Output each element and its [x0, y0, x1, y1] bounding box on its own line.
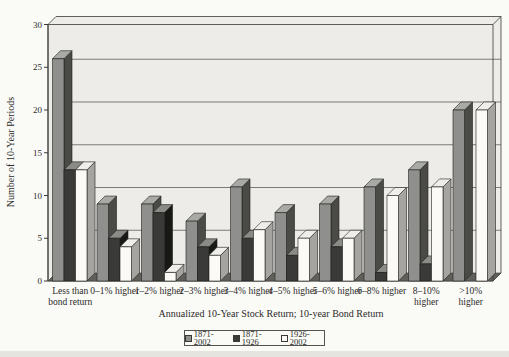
- bar-front: [409, 170, 421, 281]
- bar-front: [376, 272, 388, 281]
- legend-label: 1926-2002: [290, 330, 324, 347]
- bar: [476, 102, 496, 281]
- category-label: 8–10%higher: [413, 286, 440, 307]
- category-label: 3–4% higher: [224, 286, 274, 296]
- tick-label: 30: [33, 20, 43, 30]
- x-axis-title: Annualized 10-Year Stock Return; 10-year…: [158, 308, 383, 319]
- chart-svg: 051015202530Less thanbond return0–1% hig…: [0, 0, 509, 357]
- bar-front: [76, 170, 88, 281]
- category-label: Less thanbond return: [48, 286, 92, 307]
- tick-label: 20: [33, 105, 43, 115]
- legend-swatch: [281, 335, 288, 342]
- category-label: 1–2% higher: [135, 286, 185, 296]
- bar-front: [387, 196, 399, 282]
- y-axis-title: Number of 10-Year Periods: [5, 97, 16, 207]
- bar-front: [186, 221, 198, 281]
- bar-front: [453, 110, 465, 281]
- bar-front: [432, 187, 444, 281]
- bar-side: [354, 230, 362, 281]
- legend-swatch: [185, 335, 192, 342]
- bar-front: [142, 204, 154, 281]
- legend-item: 1926-2002: [281, 330, 324, 347]
- bar-front: [209, 255, 221, 281]
- category-label: 4–5% higher: [268, 286, 318, 296]
- bar-front: [97, 204, 109, 281]
- bar-front: [120, 247, 132, 281]
- bar-front: [165, 272, 177, 281]
- bar: [387, 188, 407, 282]
- bar: [343, 230, 363, 281]
- tick-label: 5: [38, 233, 43, 243]
- bar: [453, 102, 473, 281]
- bar-side: [488, 102, 496, 281]
- tick-label: 0: [38, 276, 43, 286]
- bar-front: [343, 238, 355, 281]
- bar-front: [287, 255, 299, 281]
- category-label: 5–6% higher: [313, 286, 363, 296]
- category-label: 0–1% higher: [90, 286, 140, 296]
- category-label: 2–3% higher: [179, 286, 229, 296]
- legend-swatch: [233, 335, 240, 342]
- tick-label: 15: [33, 148, 43, 158]
- legend-label: 1871-1926: [242, 330, 276, 347]
- legend-item: 1871-2002: [185, 330, 228, 347]
- bar-side: [399, 188, 407, 282]
- category-label: >10%higher: [459, 286, 484, 307]
- bar-side: [265, 222, 273, 281]
- bar-front: [53, 59, 65, 281]
- bar: [120, 239, 140, 281]
- bar-side: [310, 230, 318, 281]
- tick-label: 10: [33, 191, 43, 201]
- bar-front: [109, 238, 121, 281]
- bar: [432, 179, 452, 281]
- legend: 1871-20021871-19261926-2002: [184, 330, 325, 346]
- bar-front: [198, 247, 210, 281]
- bar: [298, 230, 318, 281]
- bar-front: [364, 187, 376, 281]
- tick-label: 25: [33, 62, 43, 72]
- bar-front: [254, 230, 266, 281]
- bar: [76, 162, 96, 281]
- bar: [209, 247, 229, 281]
- bar-front: [242, 238, 254, 281]
- bar: [254, 222, 274, 281]
- bar-side: [87, 162, 95, 281]
- figure: 051015202530Less thanbond return0–1% hig…: [0, 0, 509, 357]
- bottom-strip: [0, 351, 509, 357]
- bar-front: [320, 204, 332, 281]
- bar-front: [331, 247, 343, 281]
- bar-front: [476, 110, 488, 281]
- bar-front: [298, 238, 310, 281]
- category-label: 6–8% higher: [357, 286, 407, 296]
- legend-label: 1871-2002: [194, 330, 228, 347]
- bar: [364, 179, 384, 281]
- bar-front: [231, 187, 243, 281]
- bar-front: [420, 264, 432, 281]
- bar-side: [443, 179, 451, 281]
- legend-item: 1871-1926: [233, 330, 276, 347]
- bar-front: [275, 213, 287, 281]
- plot-area: 051015202530Less thanbond return0–1% hig…: [33, 17, 501, 308]
- bar-front: [64, 170, 76, 281]
- bar-front: [153, 213, 165, 281]
- bar-side: [465, 102, 473, 281]
